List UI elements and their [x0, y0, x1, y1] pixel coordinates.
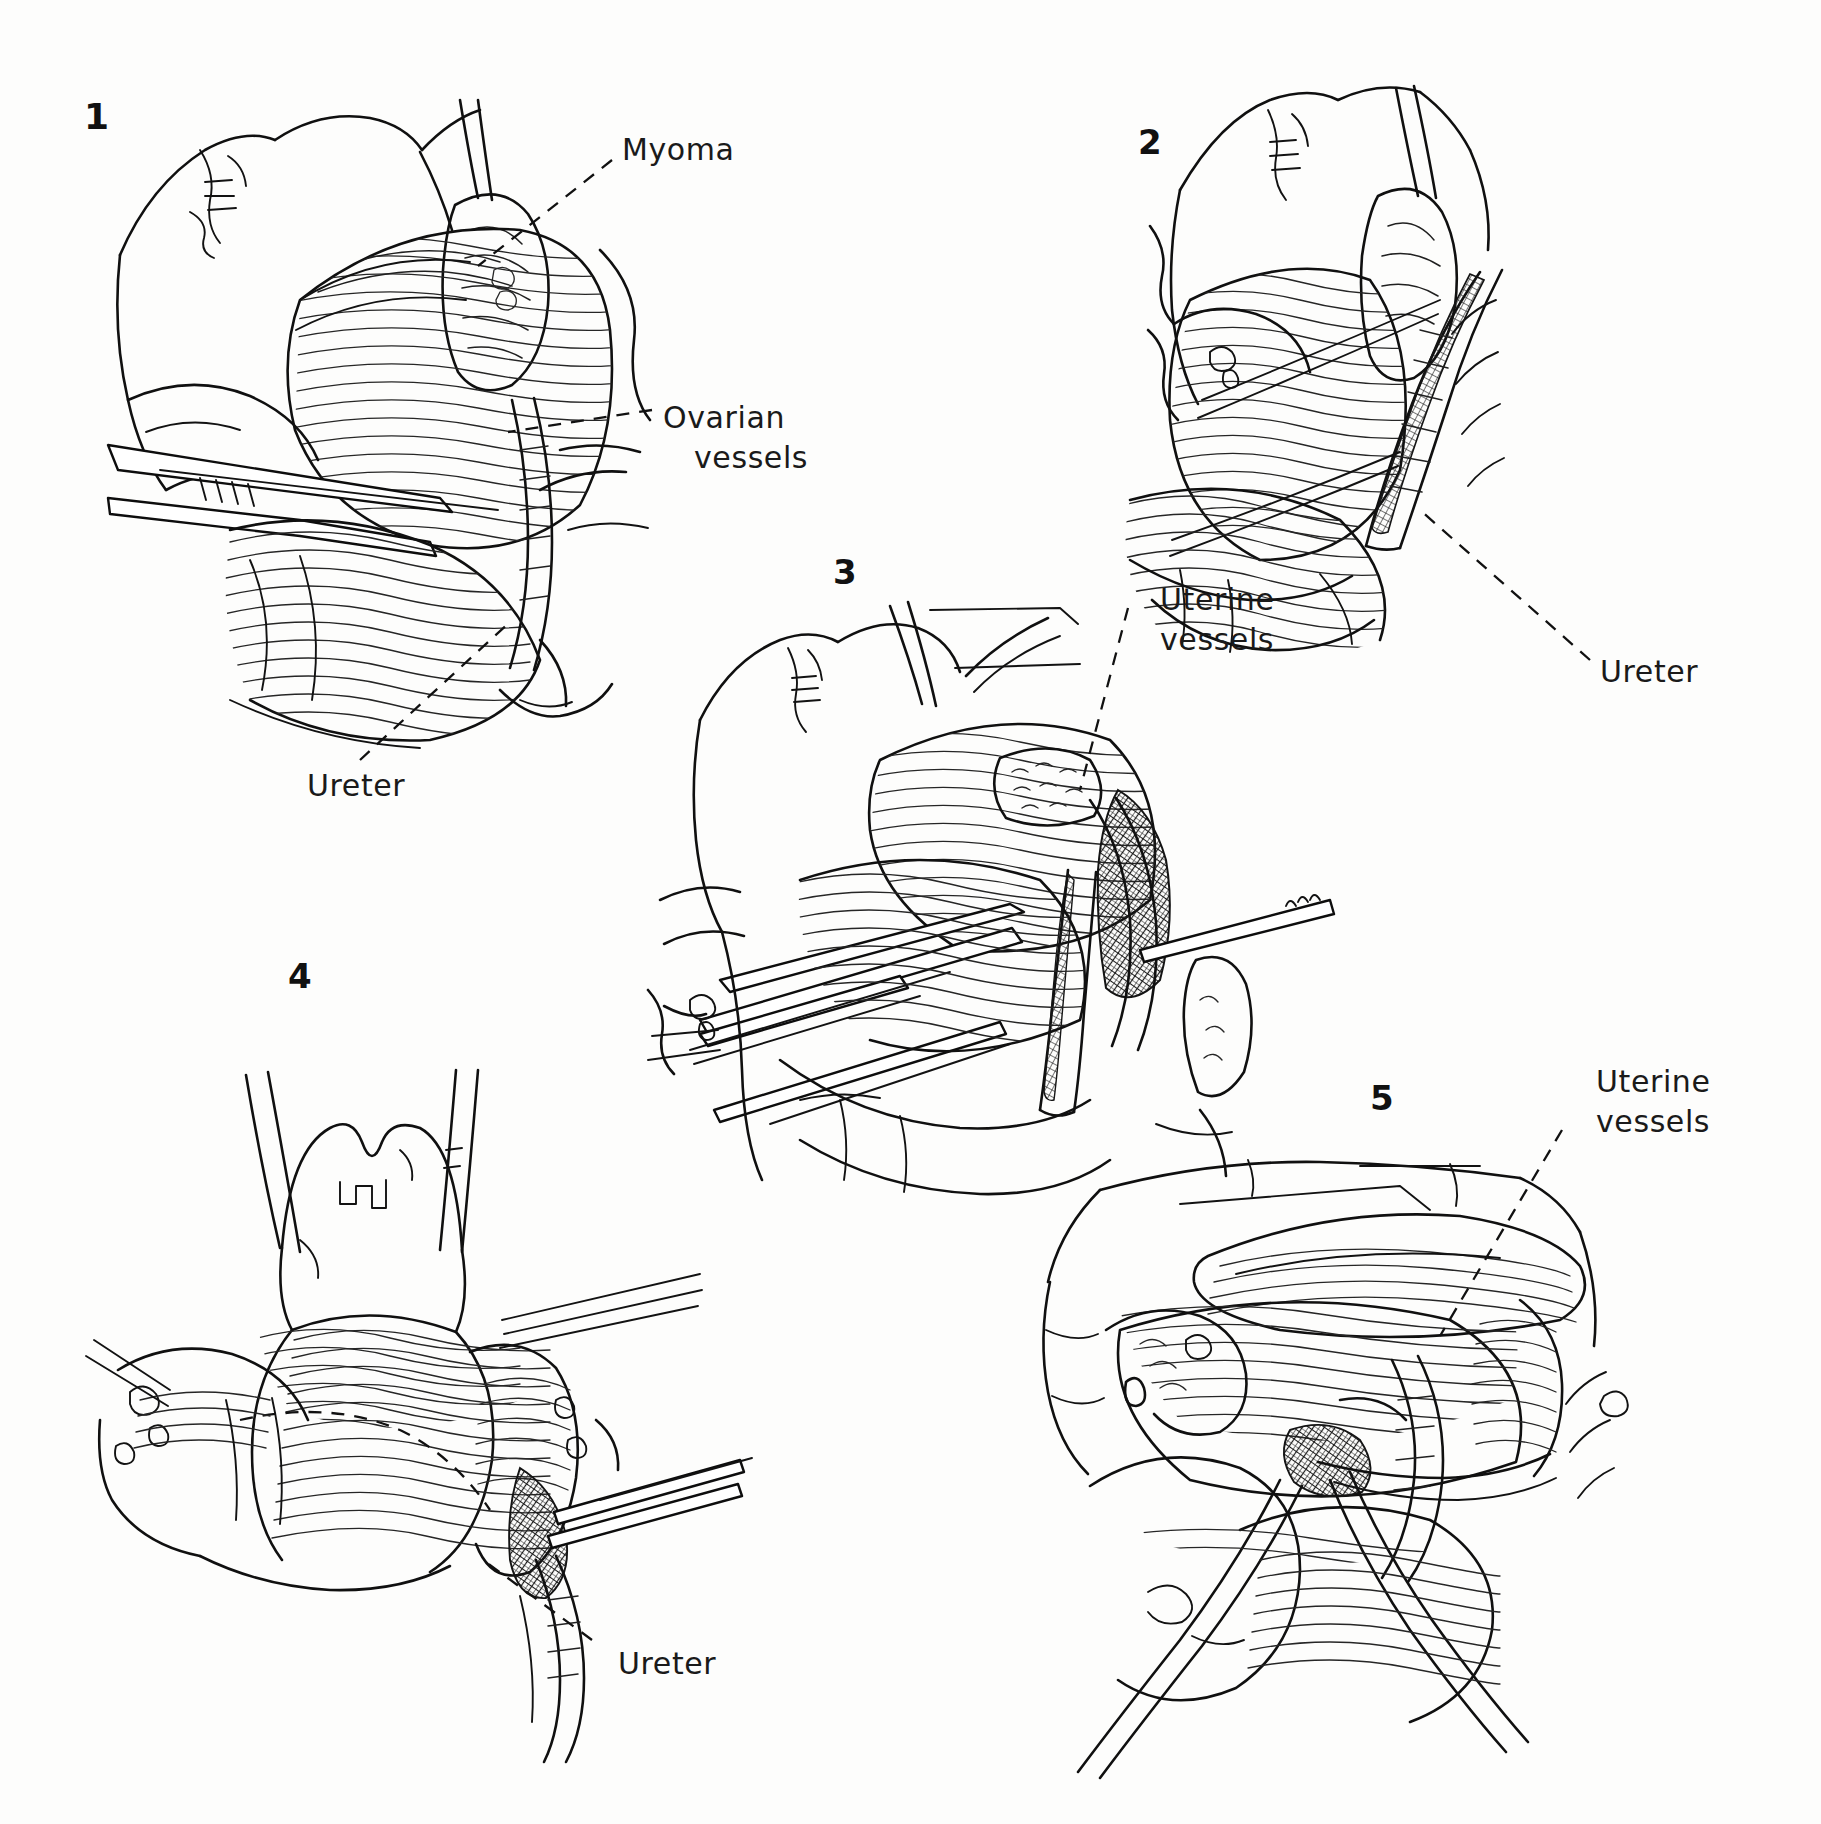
- leader-ureter-2: [1420, 510, 1590, 660]
- panel-4-forceps: [548, 1458, 752, 1548]
- label-ovarian-vessels-line2: vessels: [694, 438, 808, 478]
- panel-5-drawing: [1043, 1130, 1627, 1778]
- label-ureter-panel2: Ureter: [1600, 652, 1698, 692]
- panel-1-forceps: [108, 445, 498, 556]
- label-uterine-vessels-panel5-line1: Uterine: [1596, 1062, 1711, 1102]
- leader-uterine-vessels-5: [1440, 1130, 1562, 1336]
- label-uterine-vessels-panel3-line1: Uterine: [1160, 580, 1275, 620]
- illustration-plate: 1 Myoma Ovarian vessels Ureter 2 Ureter …: [0, 0, 1821, 1824]
- panel-3-drawing: [660, 602, 1334, 1194]
- panel-number-2: 2: [1138, 122, 1162, 162]
- label-ovarian-vessels-line1: Ovarian: [663, 398, 785, 438]
- panel-1-drawing: [108, 100, 652, 760]
- line-drawing-canvas: [0, 0, 1821, 1824]
- leader-uterine-vessels-3: [1080, 608, 1128, 790]
- panel-3-forceps-low: [714, 1022, 1010, 1124]
- label-ureter-panel1: Ureter: [307, 766, 405, 806]
- label-uterine-vessels-panel5-line2: vessels: [1596, 1102, 1710, 1142]
- panel-number-1: 1: [84, 96, 109, 137]
- label-uterine-vessels-panel3-line2: vessels: [1160, 620, 1274, 660]
- panel-number-4: 4: [288, 956, 312, 996]
- leader-ovarian-vessels: [508, 410, 652, 432]
- panel-number-5: 5: [1370, 1078, 1394, 1118]
- label-myoma: Myoma: [622, 130, 735, 170]
- panel-2-drawing: [1116, 86, 1590, 660]
- panel-number-3: 3: [833, 552, 857, 592]
- label-ureter-panel4: Ureter: [618, 1644, 716, 1684]
